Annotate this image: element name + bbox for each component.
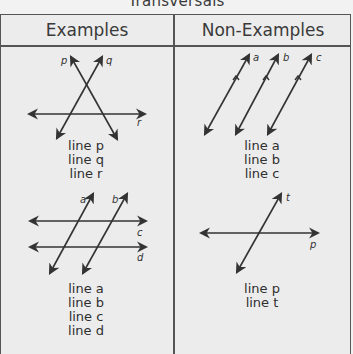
label-ex2-c: c <box>137 227 143 238</box>
label-line: line c <box>0 310 172 324</box>
label-nex1-b: b <box>283 52 289 63</box>
label-line: line b <box>0 296 172 310</box>
parallel-marks <box>233 76 301 80</box>
nonexample1-labels: line a line b line c <box>174 139 350 181</box>
nonexample2-labels: line p line t <box>174 282 350 310</box>
label-line: line r <box>0 167 172 181</box>
label-nex2-t: t <box>286 192 291 203</box>
nonexample1-line-c <box>268 55 311 134</box>
example2-line-b <box>83 194 127 273</box>
label-ex1-p: p <box>60 55 67 66</box>
label-line: line t <box>174 296 350 310</box>
label-line: line c <box>174 167 350 181</box>
label-line: line b <box>174 153 350 167</box>
label-line: line a <box>0 282 172 296</box>
example1-line-p <box>71 57 117 139</box>
label-line: line p <box>0 139 172 153</box>
label-nex2-p: p <box>309 239 316 250</box>
example2-labels: line a line b line c line d <box>0 282 172 338</box>
label-ex2-b: b <box>112 194 118 205</box>
label-line: line p <box>174 282 350 296</box>
label-line: line a <box>174 139 350 153</box>
example1-labels: line p line q line r <box>0 139 172 181</box>
label-nex1-a: a <box>253 52 259 63</box>
label-ex2-a: a <box>80 194 86 205</box>
label-ex1-r: r <box>137 117 142 128</box>
example2-line-a <box>50 194 93 273</box>
label-line: line d <box>0 324 172 338</box>
label-ex1-q: q <box>106 55 112 66</box>
example1-line-q <box>57 57 102 138</box>
label-nex1-c: c <box>316 52 322 63</box>
label-ex2-d: d <box>137 252 144 263</box>
label-line: line q <box>0 153 172 167</box>
